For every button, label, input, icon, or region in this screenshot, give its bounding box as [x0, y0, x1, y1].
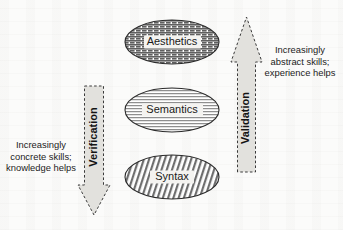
diagram-svg: Verification Validation Aesthetics Sema	[0, 0, 343, 230]
abstract-skills-caption-line-2: abstract skills;	[259, 56, 341, 68]
concrete-skills-caption-line-1: Increasingly	[2, 139, 80, 151]
concrete-skills-caption-line-3: knowledge helps	[2, 162, 80, 174]
abstract-skills-caption-line-1: Increasingly	[259, 44, 341, 56]
validation-arrow-label: Validation	[239, 92, 251, 144]
verification-arrow-label: Verification	[87, 107, 99, 167]
ellipse-syntax: Syntax	[118, 150, 228, 206]
concrete-skills-caption-line-2: concrete skills;	[2, 151, 80, 163]
abstract-skills-caption: Increasingly abstract skills; experience…	[259, 44, 341, 79]
aesthetics-label: Aesthetics	[147, 35, 198, 47]
ellipse-aesthetics: Aesthetics	[120, 15, 225, 71]
verification-arrow: Verification	[78, 86, 110, 215]
abstract-skills-caption-line-3: experience helps	[259, 67, 341, 79]
ellipse-semantics: Semantics	[120, 83, 225, 139]
semantics-label: Semantics	[146, 103, 198, 115]
concrete-skills-caption: Increasingly concrete skills; knowledge …	[2, 139, 80, 174]
syntax-label: Syntax	[155, 170, 189, 182]
diagram-canvas: Verification Validation Aesthetics Sema	[0, 0, 343, 230]
validation-arrow: Validation	[231, 17, 262, 172]
